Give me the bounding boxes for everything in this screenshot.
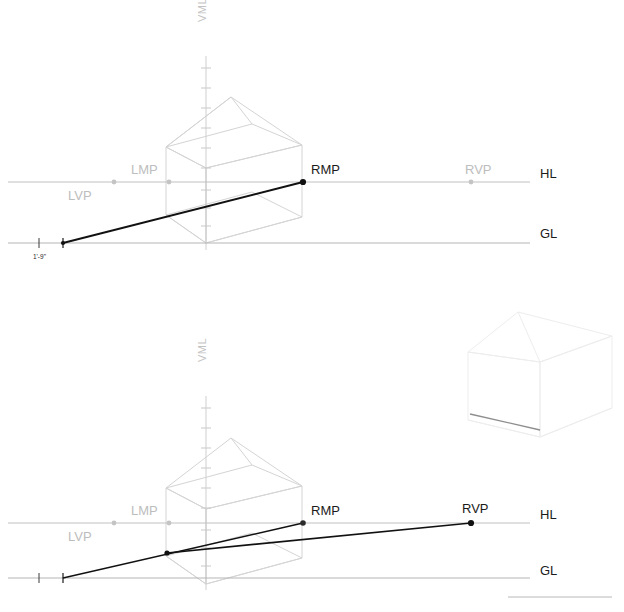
house-ridge-line (231, 438, 252, 465)
house-eaves-front (166, 145, 302, 168)
result-floor-front-edge (470, 414, 540, 430)
rvp-projection-line[interactable] (167, 523, 471, 553)
house-eaves-back (166, 124, 302, 147)
label-horizon-line: HL (540, 507, 557, 522)
point-rvp[interactable] (469, 180, 474, 185)
diagram-canvas: VML LVP LMP RMP RVP HL GL (0, 0, 624, 612)
rmp-measure-line[interactable] (63, 523, 303, 578)
label-lmp: LMP (131, 503, 158, 518)
point-rvp[interactable] (468, 520, 474, 526)
dimension-label: 1'-9" (33, 253, 47, 260)
point-lvp[interactable] (112, 180, 117, 185)
house-right-wall (206, 486, 302, 584)
house-ridge-line (231, 97, 252, 124)
rmp-measure-line[interactable] (63, 182, 303, 243)
house-wireframe-main (166, 438, 302, 584)
result-left-wall (468, 352, 540, 437)
house-eaves-front (166, 486, 302, 509)
house-wireframe-main (166, 97, 302, 243)
label-lvp: LVP (68, 529, 92, 544)
point-rmp[interactable] (300, 179, 306, 185)
label-rvp: RVP (462, 501, 489, 516)
house-floor-back-edges (166, 192, 302, 217)
point-lmp[interactable] (167, 180, 172, 185)
label-horizon-line: HL (540, 166, 557, 181)
house-floor-back-edges (166, 533, 302, 558)
house-roof-left-edge (166, 97, 231, 147)
house-roof-front-slope (166, 97, 302, 147)
label-rvp: RVP (465, 162, 492, 177)
house-floor-edges (166, 215, 302, 243)
lower-perspective-diagram: VML LVP LMP RMP RVP HL (8, 312, 612, 597)
label-rmp: RMP (311, 162, 340, 177)
result-ridge (518, 312, 540, 362)
point-lmp[interactable] (167, 521, 172, 526)
point-rmp[interactable] (300, 520, 306, 526)
label-rmp: RMP (311, 503, 340, 518)
house-floor-edges (166, 556, 302, 584)
vertical-measuring-line: VML (196, 338, 211, 590)
result-eaves (468, 336, 612, 362)
label-ground-line: GL (540, 563, 557, 578)
result-right-wall (540, 336, 612, 437)
label-lmp: LMP (131, 162, 158, 177)
perspective-construction-svg: VML LVP LMP RMP RVP HL GL (0, 0, 624, 612)
vml-axis-label: VML (196, 0, 208, 22)
corner-node[interactable] (164, 550, 169, 555)
upper-perspective-diagram: VML LVP LMP RMP RVP HL GL (8, 0, 557, 260)
vml-axis-label: VML (196, 338, 208, 362)
vertical-measuring-line: VML (196, 0, 211, 250)
house-roof-front-slope (166, 438, 302, 488)
house-eaves-back (166, 465, 302, 488)
point-lvp[interactable] (112, 521, 117, 526)
label-ground-line: GL (540, 226, 557, 241)
result-roof-slopes (468, 312, 612, 352)
label-lvp: LVP (68, 188, 92, 203)
